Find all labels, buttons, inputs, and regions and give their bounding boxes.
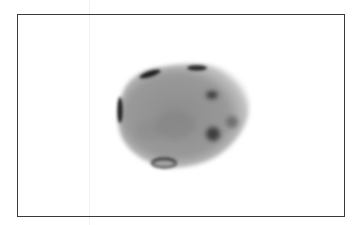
bottom-ring-spot (152, 159, 176, 168)
interior-shade (136, 120, 164, 140)
left-edge-spot (118, 97, 123, 123)
top-spot (187, 65, 207, 71)
right-lower-spot (206, 127, 220, 141)
specimen-figure (0, 0, 358, 225)
image-canvas (0, 0, 358, 225)
right-faint-spot (226, 116, 238, 128)
right-upper-spot (206, 91, 218, 99)
